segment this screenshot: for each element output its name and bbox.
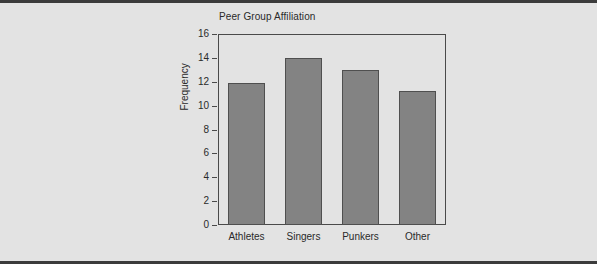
bar [228, 83, 266, 225]
y-tick-label: 0 [183, 220, 209, 230]
x-tick-label: Singers [275, 231, 332, 242]
chart-title: Peer Group Affiliation [219, 11, 316, 22]
y-tick-label: 4 [183, 172, 209, 182]
bar [399, 91, 437, 225]
x-tick-label: Other [389, 231, 446, 242]
y-tick-mark [212, 201, 217, 202]
y-tick-label: 10 [183, 101, 209, 111]
y-tick-label: 14 [183, 53, 209, 63]
page-background: Peer Group Affiliation Frequency 0246810… [0, 0, 597, 264]
bar [342, 70, 380, 225]
y-tick-label: 6 [183, 148, 209, 158]
y-tick-mark [212, 34, 217, 35]
bar [285, 58, 323, 225]
x-tick-label: Punkers [332, 231, 389, 242]
y-tick-mark [212, 82, 217, 83]
y-tick-mark [212, 130, 217, 131]
y-tick-mark [212, 177, 217, 178]
bars-container [218, 34, 446, 225]
y-tick-mark [212, 58, 217, 59]
y-tick-label: 16 [183, 29, 209, 39]
y-tick-mark [212, 225, 217, 226]
y-tick-label: 2 [183, 196, 209, 206]
y-tick-mark [212, 106, 217, 107]
y-tick-mark [212, 153, 217, 154]
y-tick-label: 12 [183, 77, 209, 87]
x-tick-label: Athletes [218, 231, 275, 242]
bar-chart: Peer Group Affiliation Frequency 0246810… [0, 3, 597, 264]
y-tick-label: 8 [183, 125, 209, 135]
